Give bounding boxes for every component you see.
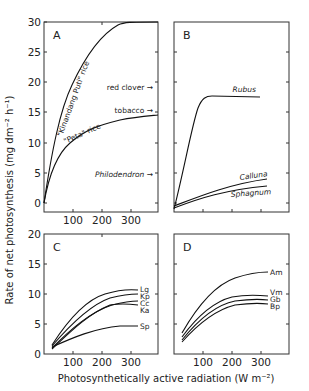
ytick-label: 30 [28, 16, 41, 28]
ytick-label: 5 [34, 167, 41, 179]
xtick-label: 300 [121, 356, 141, 368]
y-axis-label: Rate of net photosynthesis (mg dm⁻² h⁻¹) [4, 95, 15, 304]
panel-label: C [53, 241, 61, 254]
x-axis-label: Photosynthetically active radiation (W m… [58, 373, 275, 384]
ytick-label: 5 [34, 318, 41, 330]
panel-label: D [183, 241, 191, 254]
xtick-label: 200 [92, 356, 112, 368]
curve-vm [182, 295, 268, 337]
annotation-tobacco: tobacco → [115, 106, 153, 115]
xtick-label: 300 [251, 356, 271, 368]
curve-am [182, 272, 268, 333]
annotation-red-clover: red clover → [107, 83, 153, 92]
ytick-label: 20 [28, 76, 41, 88]
panel-label: B [183, 29, 191, 42]
figure: Rate of net photosynthesis (mg dm⁻² h⁻¹)… [0, 0, 309, 391]
ytick-label: 10 [28, 288, 41, 300]
panel-d: 100 200 300 D Am Vm Gb Bp [174, 234, 289, 368]
series-label-sp: Sp [140, 322, 150, 331]
panel-b: B Rubus Calluna Sphagnum [174, 22, 289, 212]
ytick-label: 15 [28, 106, 41, 118]
xtick-label: 100 [63, 214, 83, 226]
label-rubus: Rubus [233, 85, 256, 94]
xtick-label: 300 [121, 214, 141, 226]
series-label-bp: Bp [270, 302, 280, 311]
ytick-label: 0 [34, 197, 41, 209]
panel-c: 20 15 10 5 0 100 200 300 C Lg Kp Cc Ka S… [28, 228, 158, 368]
curve-bp [182, 303, 268, 342]
xtick-label: 200 [222, 356, 242, 368]
ytick-label: 25 [28, 46, 41, 58]
series-label-ka: Ka [140, 306, 149, 315]
ytick-label: 20 [28, 228, 41, 240]
ytick-label: 15 [28, 258, 41, 270]
series-label-am: Am [270, 268, 282, 277]
curve-gb [182, 299, 268, 340]
ytick-label: 10 [28, 137, 41, 149]
label-kinandang-puti: "Kinandang Puti" rice [55, 59, 91, 137]
ytick-label: 0 [34, 348, 41, 360]
xtick-label: 100 [63, 356, 83, 368]
panel-label: A [53, 29, 61, 42]
annotation-philodendron: Philodendron → [95, 170, 153, 179]
label-sphagnum: Sphagnum [231, 187, 272, 199]
panel-a: 30 25 20 15 10 5 0 100 200 300 A "Kinand… [28, 16, 158, 226]
xtick-label: 100 [193, 356, 213, 368]
xtick-label: 200 [92, 214, 112, 226]
label-calluna: Calluna [239, 169, 268, 182]
